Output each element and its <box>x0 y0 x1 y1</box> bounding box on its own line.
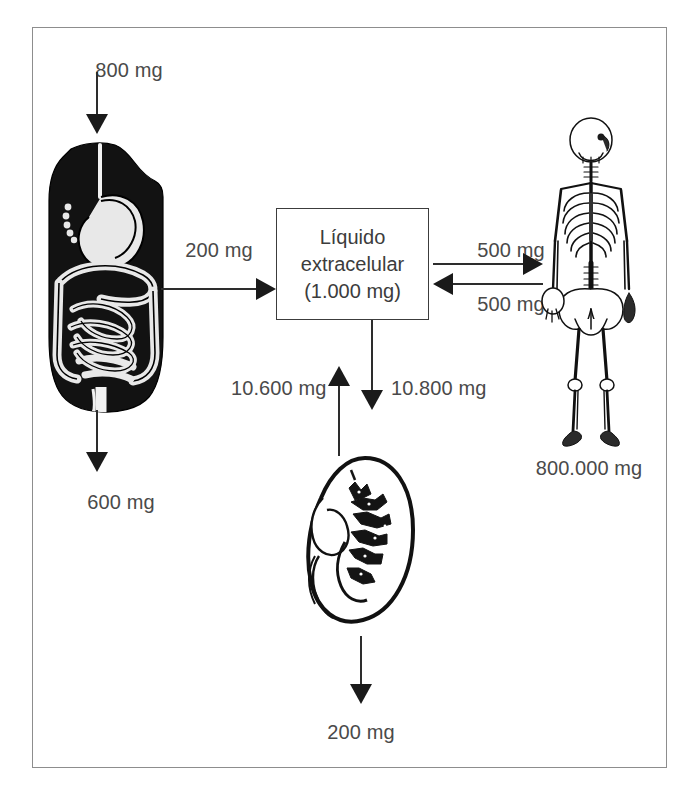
bone-resorption-arrow <box>433 274 543 294</box>
glomerular-filtration-label: 10.800 mg <box>391 376 486 400</box>
figure-frame: 800 mg <box>32 27 667 768</box>
absorption-arrow <box>161 278 276 300</box>
extracellular-fluid-box: Líquido extracelular (1.000 mg) <box>276 208 429 320</box>
intake-arrow <box>86 72 108 134</box>
skeleton-illustration <box>531 113 651 448</box>
feces-label: 600 mg <box>87 490 154 514</box>
tubular-reabsorption-label: 10.600 mg <box>231 376 326 400</box>
absorption-label: 200 mg <box>185 238 252 262</box>
gastrointestinal-tract-illustration <box>43 141 171 413</box>
fluid-box-line-2: extracelular <box>301 251 404 278</box>
feces-arrow <box>86 410 108 472</box>
calcium-metabolism-figure: 800 mg <box>0 0 687 792</box>
tubular-reabsorption-arrow <box>328 366 350 456</box>
fluid-box-line-3: (1.000 mg) <box>304 278 401 305</box>
glomerular-filtration-arrow <box>361 320 383 410</box>
bone-deposition-arrow <box>433 254 543 274</box>
kidney-illustration <box>289 452 429 632</box>
urine-arrow <box>350 636 372 704</box>
bone-pool-label: 800.000 mg <box>536 456 643 480</box>
fluid-box-line-1: Líquido <box>320 224 386 251</box>
urine-label: 200 mg <box>327 720 394 744</box>
